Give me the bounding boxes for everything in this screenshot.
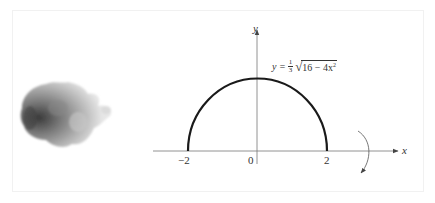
tick-label-right: 2 — [324, 155, 330, 166]
fraction-denominator: 3 — [289, 67, 293, 74]
equation-lhs: y = — [272, 61, 286, 72]
exponent: 2 — [333, 62, 336, 68]
tick-label-left: −2 — [178, 155, 190, 166]
semi-ellipse-curve — [188, 78, 327, 151]
square-root: √ 16 − 4x2 — [295, 60, 337, 73]
curve-equation: y = 1 3 √ 16 − 4x2 — [272, 59, 337, 74]
equation-fraction: 1 3 — [288, 59, 294, 74]
tick-label-origin: 0 — [248, 155, 254, 166]
y-axis-label: y — [253, 23, 258, 34]
radicand: 16 − 4x — [302, 62, 333, 73]
rotation-arrow-icon — [358, 131, 369, 173]
semi-ellipse-plot — [0, 0, 435, 203]
x-axis-label: x — [402, 145, 407, 156]
